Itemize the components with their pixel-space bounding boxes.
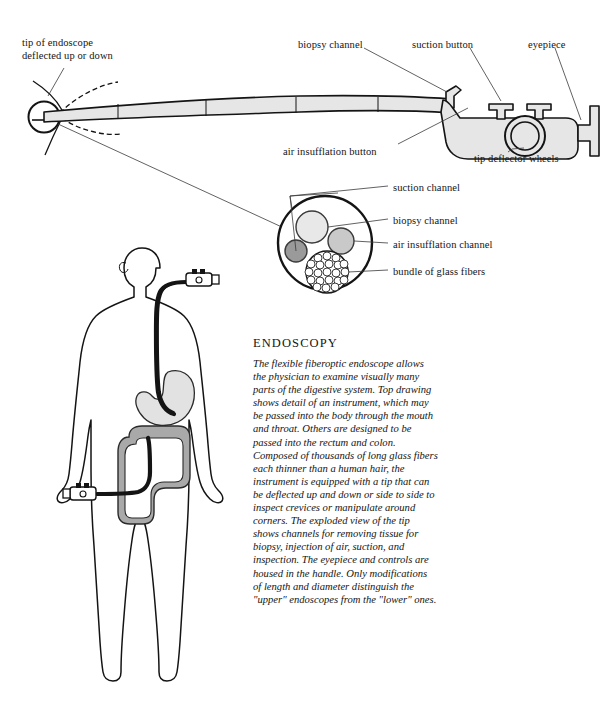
upper-endoscope-handle	[186, 269, 219, 286]
eyepiece	[578, 106, 599, 156]
leader-biopsy-channel	[364, 48, 447, 92]
body-figure-group	[57, 248, 223, 681]
leader-suction-button	[470, 48, 501, 101]
upper-handle-eyepiece	[212, 275, 219, 284]
illustration-page: .ln{fill:none;stroke:#141414;} .leader{f…	[0, 0, 614, 703]
suction-button[interactable]	[489, 104, 513, 119]
leader-suction-channel-h	[290, 186, 388, 196]
label-biopsy-channel: biopsy channel	[393, 214, 458, 227]
panel-body-text: The flexible fiberoptic endoscope allows…	[253, 357, 438, 606]
lower-handle-eyepiece	[63, 489, 70, 498]
biopsy-channel-circle	[296, 211, 328, 243]
glass-fiber-bundle	[305, 251, 349, 293]
label-suction-channel: suction channel	[393, 181, 460, 194]
leader-tip	[48, 68, 64, 96]
tip-deflector-wheel-inner[interactable]	[511, 122, 539, 150]
top-diagram-group	[29, 48, 600, 159]
explosion-line-lower	[58, 124, 284, 228]
endoscope-shaft	[44, 96, 452, 122]
label-eyepiece: eyepiece	[528, 38, 566, 51]
label-air-insufflation-channel: air insufflation channel	[393, 238, 493, 251]
endoscopy-text-panel: ENDOSCOPY The flexible fiberoptic endosc…	[253, 336, 438, 606]
lower-handle-button-2	[84, 483, 89, 488]
lower-handle-wheel	[80, 491, 86, 497]
label-tip-of-endoscope: tip of endoscope deflected up or down	[22, 36, 113, 62]
upper-handle-button-2	[200, 269, 205, 274]
upper-handle-button-1	[192, 269, 197, 274]
panel-title: ENDOSCOPY	[253, 336, 438, 351]
lower-handle-button-1	[76, 483, 81, 488]
leader-eyepiece	[555, 48, 581, 120]
upper-handle-wheel	[196, 277, 202, 283]
label-suction-button: suction button	[412, 38, 473, 51]
label-biopsy-channel-top: biopsy channel	[298, 38, 363, 51]
label-bundle-of-glass-fibers: bundle of glass fibers	[393, 265, 485, 278]
label-air-insufflation-button: air insufflation button	[283, 145, 377, 158]
label-tip-deflector-wheels: tip deflector wheels	[474, 152, 559, 165]
air-insufflation-channel-circle	[328, 228, 354, 254]
